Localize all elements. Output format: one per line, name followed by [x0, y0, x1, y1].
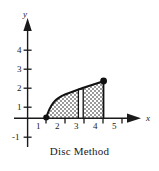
y-tick-label-1: 1 — [17, 103, 22, 112]
y-axis — [23, 18, 31, 147]
x-tick-label-3: 3 — [74, 122, 79, 131]
y-tick-label-4: 4 — [17, 46, 22, 55]
y-tick-label-3: 3 — [17, 65, 22, 74]
x-tick-label-1: 1 — [36, 122, 41, 131]
y-axis-label: y — [23, 10, 27, 19]
x-axis-label: x — [146, 114, 150, 123]
figure-caption: Disc Method — [0, 145, 159, 158]
shaded-region — [46, 81, 104, 118]
representative-disc — [78, 89, 83, 119]
x-tick-label-5: 5 — [112, 122, 117, 131]
y-tick-label-minus-1: -1 — [12, 133, 20, 142]
x-tick-label-4: 4 — [93, 122, 98, 131]
x-tick-label-2: 2 — [55, 122, 60, 131]
disc-method-figure: 1 2 3 4 5 4 3 2 1 -1 y x Disc Method — [0, 0, 159, 171]
y-tick-label-2: 2 — [17, 84, 22, 93]
